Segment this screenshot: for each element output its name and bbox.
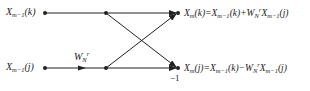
node-output-top <box>176 11 180 15</box>
minus-one-label: −1 <box>170 74 180 83</box>
cross-line-up <box>106 14 176 68</box>
twiddle-arrow-icon <box>78 66 86 71</box>
twiddle-factor-label: WNr <box>74 51 89 64</box>
node-input-top <box>43 11 47 15</box>
output-top-label: Xm(k)=Xm−1(k)+WNrXm−1(j) <box>184 7 289 20</box>
node-input-bottom <box>43 66 47 70</box>
input-bottom-label: Xm−1(j) <box>6 62 34 74</box>
output-bottom-label: Xm(j)=Xm−1(k)−WNrXm−1(j) <box>184 62 287 75</box>
input-top-label: Xm−1(k) <box>6 7 36 19</box>
cross-line-down <box>106 13 176 67</box>
node-output-bottom <box>176 66 180 70</box>
node-mid-top <box>104 11 108 15</box>
node-mid-bottom <box>104 66 108 70</box>
